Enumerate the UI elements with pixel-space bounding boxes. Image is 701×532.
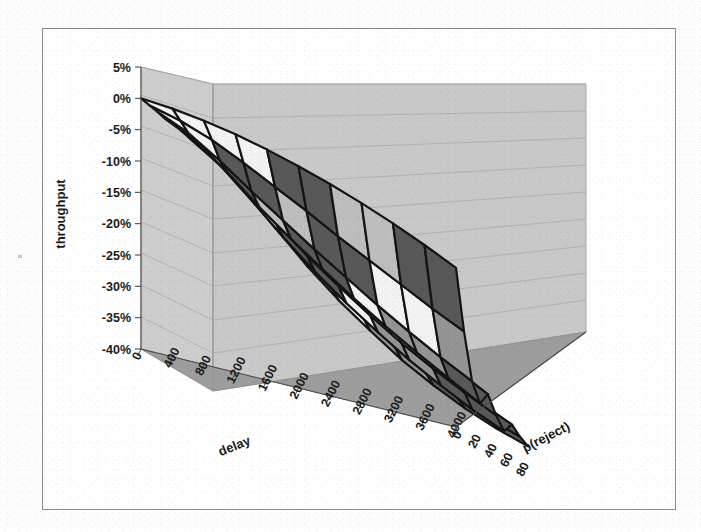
y-axis-title: throughput	[53, 179, 68, 249]
y-axis: 5%0%-5%-10%-15%-20%-25%-30%-35%-40% thro…	[53, 61, 141, 357]
z-axis-tick-label: 60	[497, 451, 516, 470]
y-axis-tick-label: -20%	[102, 217, 131, 231]
surface-chart-3d: 5%0%-5%-10%-15%-20%-25%-30%-35%-40% thro…	[43, 29, 675, 509]
y-axis-tick-label: 5%	[113, 61, 131, 75]
z-axis-tick-label: 40	[481, 441, 500, 460]
z-axis-tick-label: 80	[513, 460, 532, 479]
y-axis-tick-label: -10%	[102, 155, 131, 169]
y-axis-ticks: 5%0%-5%-10%-15%-20%-25%-30%-35%-40%	[102, 61, 141, 357]
y-axis-tick-label: -40%	[102, 343, 131, 357]
x-axis-title: delay	[216, 432, 253, 459]
z-axis-title: p(reject)	[520, 419, 573, 456]
scan-artifact-speck	[18, 255, 22, 258]
y-axis-tick-label: -30%	[102, 280, 131, 294]
page-canvas: 5%0%-5%-10%-15%-20%-25%-30%-35%-40% thro…	[0, 0, 701, 532]
x-axis-tick-label: 0	[129, 350, 145, 363]
y-axis-tick-label: -25%	[102, 249, 131, 263]
chart-frame: 5%0%-5%-10%-15%-20%-25%-30%-35%-40% thro…	[42, 28, 676, 510]
z-axis-tick-label: 20	[465, 432, 484, 451]
y-axis-tick-label: -5%	[109, 123, 131, 137]
y-axis-tick-label: 0%	[113, 92, 131, 106]
y-axis-tick-label: -15%	[102, 186, 131, 200]
y-axis-tick-label: -35%	[102, 311, 131, 325]
